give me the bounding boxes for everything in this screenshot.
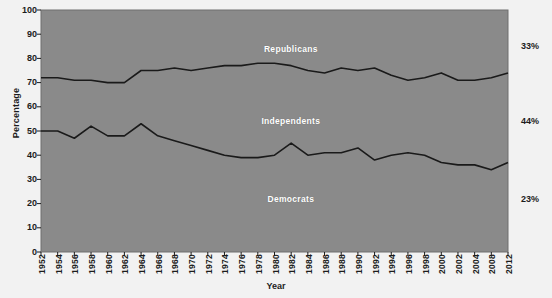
edge-percentage-33: 33%	[521, 41, 539, 51]
y-tick-label: 90	[9, 30, 37, 39]
edge-percentage-23: 23%	[521, 194, 539, 204]
x-tick-label: 1994	[387, 254, 397, 274]
y-tick-label: 10	[9, 223, 37, 232]
band-label-independents: Independents	[261, 116, 320, 126]
y-tick-label: 60	[9, 102, 37, 111]
y-tick-label: 40	[9, 151, 37, 160]
x-tick-label: 2004	[471, 254, 481, 274]
x-tick-label: 1970	[187, 254, 197, 274]
band-label-democrats: Democrats	[268, 194, 315, 204]
x-axis-title: Year	[0, 281, 552, 291]
x-tick-label: 1964	[137, 254, 147, 274]
y-tick-label: 70	[9, 78, 37, 87]
x-tick-label: 1998	[421, 254, 431, 274]
x-tick-label: 1972	[204, 254, 214, 274]
x-tick-label: 1974	[220, 254, 230, 274]
x-tick-label: 1996	[404, 254, 414, 274]
x-tick-label: 1978	[254, 254, 264, 274]
x-tick-label: 2012	[504, 254, 514, 274]
x-tick-label: 1992	[371, 254, 381, 274]
x-tick-label: 1960	[104, 254, 114, 274]
x-tick-label: 1956	[70, 254, 80, 274]
x-tick-label: 1980	[271, 254, 281, 274]
x-tick-label: 2002	[454, 254, 464, 274]
x-tick-label: 1990	[354, 254, 364, 274]
y-tick-label: 100	[9, 6, 37, 15]
band-label-republicans: Republicans	[264, 44, 318, 54]
x-tick-label: 1976	[237, 254, 247, 274]
x-tick-label: 1966	[154, 254, 164, 274]
y-tick-label: 20	[9, 199, 37, 208]
x-tick-label: 1968	[170, 254, 180, 274]
x-tick-label: 1986	[321, 254, 331, 274]
x-tick-label: 2008	[487, 254, 497, 274]
y-tick-label: 50	[9, 127, 37, 136]
party-identification-area-chart: Percentage Year 1009080706050403020100 1…	[0, 0, 552, 298]
x-tick-label: 1988	[337, 254, 347, 274]
x-tick-label: 1954	[54, 254, 64, 274]
x-tick-label: 1982	[287, 254, 297, 274]
x-tick-label: 1958	[87, 254, 97, 274]
y-tick-label: 0	[9, 248, 37, 257]
y-tick-label: 80	[9, 54, 37, 63]
edge-percentage-44: 44%	[521, 116, 539, 126]
x-tick-label: 1952	[37, 254, 47, 274]
x-tick-label: 2000	[437, 254, 447, 274]
y-tick-label: 30	[9, 175, 37, 184]
x-tick-label: 1962	[120, 254, 130, 274]
x-tick-label: 1984	[304, 254, 314, 274]
